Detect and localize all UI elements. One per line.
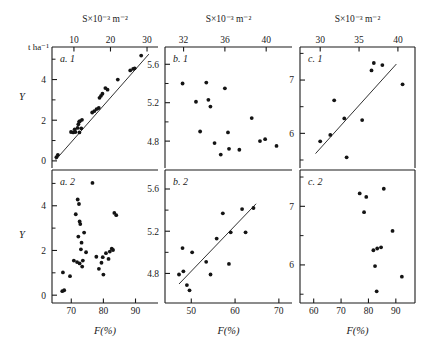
panel-label: a. 2 [60,176,75,187]
x-tick-label: 40 [261,35,271,45]
y-tick-label: 7 [289,202,294,212]
data-point [61,270,65,274]
panel-c2: 6070809067c. 2 [289,170,415,316]
y-tick-label: 5.2 [147,227,159,237]
trend-line [179,204,256,284]
data-point [101,92,105,96]
scatter-plot-figure: 102030024a. 13236404.85.25.6b. 130354067… [0,0,445,354]
data-point [181,246,185,250]
x-tick-label: 90 [391,306,401,316]
data-point [328,133,332,137]
panel-b2: 5060704.85.25.6b. 2 [147,170,292,316]
y-tick-label: 5.6 [147,184,159,194]
data-point [332,98,336,102]
data-point [80,118,84,122]
x-tick-label: 32 [179,35,189,45]
panel-label: c. 1 [308,53,322,64]
x-tick-label: 30 [315,35,325,45]
y-tick-label: 0 [41,291,46,301]
data-point [380,63,384,67]
data-point [198,130,202,134]
data-point [209,273,213,277]
y-tick-label: 4.8 [147,137,159,147]
data-point [74,212,78,216]
panel-label: b. 2 [173,176,188,187]
data-point [185,283,189,287]
data-point [76,198,80,202]
x-tick-label: 60 [309,306,319,316]
data-point [263,137,267,141]
data-point [181,82,185,86]
data-point [181,269,185,273]
y-tick-label: 4 [41,201,46,211]
panel-a1: 102030024a. 1 [41,35,158,168]
y-axis-title: Y [19,229,26,240]
data-point [68,274,72,278]
x-tick-label: 10 [69,35,79,45]
data-point [188,288,192,292]
data-point [375,247,379,251]
y-tick-label: 5.2 [147,98,159,108]
bottom-axis-label: F(%) [216,325,240,337]
x-tick-label: 35 [354,35,364,45]
data-point [177,273,181,277]
y-tick-label: 7 [289,75,294,85]
data-point [80,265,84,269]
data-point [345,155,349,159]
data-point [133,66,137,70]
data-point [213,141,217,145]
data-point [227,147,231,151]
data-point [206,98,210,102]
data-point [106,88,110,92]
data-point [223,86,227,90]
data-point [379,245,383,249]
data-point [139,54,143,58]
data-point [221,211,225,215]
x-tick-label: 40 [393,35,403,45]
data-point [79,126,83,130]
x-tick-label: 30 [142,35,152,45]
data-point [342,117,346,121]
y-unit-label: t ha⁻¹ [28,42,49,52]
data-point [94,255,98,259]
data-point [219,153,223,157]
data-point [358,192,362,196]
data-point [258,139,262,143]
y-tick-label: 6 [289,260,294,270]
y-tick-label: 4 [41,75,46,85]
data-point [190,250,194,254]
data-point [360,118,364,122]
data-point [78,262,82,266]
data-point [84,250,88,254]
x-tick-label: 70 [336,306,346,316]
data-point [227,262,231,266]
panel-label: c. 2 [308,176,322,187]
data-point [250,116,254,120]
data-point [56,153,60,157]
data-point [375,289,379,293]
data-point [204,260,208,264]
data-point [116,78,120,82]
data-point [318,139,322,143]
data-point [62,288,66,292]
figure-panel-grid: 102030024a. 13236404.85.25.6b. 130354067… [0,0,445,354]
panel-b1: 3236404.85.25.6b. 1 [147,35,292,168]
data-point [401,82,405,86]
x-tick-label: 70 [67,306,77,316]
y-tick-label: 2 [41,246,46,256]
bottom-axis-label: F(%) [345,325,369,337]
top-axis-label: S×10⁻³ m⁻² [82,14,128,24]
y-tick-label: 5.6 [147,60,159,70]
data-point [91,181,95,185]
data-point [82,231,86,235]
data-point [370,69,374,73]
data-point [252,206,256,210]
data-point [101,273,105,277]
data-point [382,187,386,191]
data-point [226,131,230,135]
data-point [373,264,377,268]
data-point [98,96,102,100]
data-point [194,100,198,104]
top-axis-label: S×10⁻³ m⁻² [206,14,252,24]
data-point [372,61,376,65]
